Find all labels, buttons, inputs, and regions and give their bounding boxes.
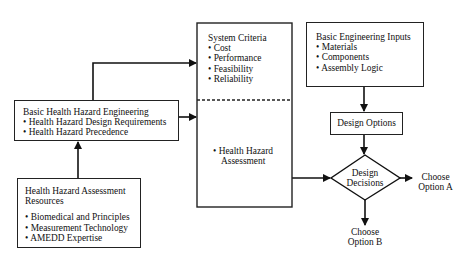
resources-item: • Biomedical and Principles	[25, 212, 130, 222]
resources-title: Health Hazard Assessment	[25, 186, 130, 196]
criteria-item: • Reliability	[208, 74, 267, 84]
design-options-label: Design Options	[331, 118, 402, 128]
criteria-item: • Performance	[208, 53, 267, 63]
criteria-item: • Cost	[208, 43, 267, 53]
criteria-item: • Feasibility	[208, 64, 267, 74]
design-options-box: Design Options	[330, 112, 403, 135]
inputs-item: • Assembly Logic	[316, 63, 411, 73]
option-a-label: Choose Option A	[413, 172, 458, 192]
resources-item: • Measurement Technology	[25, 223, 130, 233]
design-decisions-label: Design Decisions	[335, 168, 395, 188]
bhhe-item: • Health Hazard Design Requirements	[23, 117, 166, 127]
option-b-label: Choose Option B	[340, 227, 390, 247]
arrow-bhhe-to-criteria	[93, 63, 196, 100]
system-criteria-title: System Criteria	[208, 33, 267, 43]
resources-item: • AMEDD Expertise	[25, 233, 130, 243]
system-criteria-text: System Criteria • Cost • Performance • F…	[208, 33, 267, 84]
inputs-item: • Materials	[316, 42, 411, 52]
resources-title: Resources	[25, 196, 130, 206]
basic-hhe-box: Basic Health Hazard Engineering • Health…	[14, 100, 179, 141]
basic-engineering-inputs-box: Basic Engineering Inputs • Materials • C…	[306, 22, 424, 87]
bhhe-title: Basic Health Hazard Engineering	[23, 107, 166, 117]
inputs-title: Basic Engineering Inputs	[316, 32, 411, 42]
hha-resources-box: Health Hazard Assessment Resources • Bio…	[17, 178, 141, 248]
inputs-item: • Components	[316, 52, 411, 62]
bhhe-item: • Health Hazard Precedence	[23, 127, 166, 137]
health-hazard-assessment-text: • Health Hazard Assessment	[213, 146, 273, 166]
